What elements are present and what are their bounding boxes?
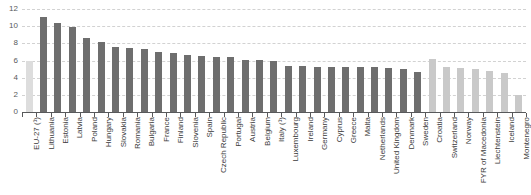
x-tick-label: Bulgaria [148, 117, 156, 146]
bar-slot [223, 9, 237, 112]
bar[interactable] [400, 69, 407, 112]
bar[interactable] [26, 61, 33, 113]
bar[interactable] [486, 71, 493, 112]
x-tick-label-text: Croatia [436, 117, 444, 143]
bar-slot [94, 9, 108, 112]
x-tick-label-text: EU-27 (¹) [33, 117, 41, 150]
bar[interactable] [126, 48, 133, 112]
bar-slot [166, 9, 180, 112]
bar[interactable] [227, 57, 234, 112]
x-tick-label: Slovenia [192, 117, 200, 148]
bar[interactable] [242, 60, 249, 112]
x-tick-label-text: Latvia [76, 117, 84, 138]
bar-slot [36, 9, 50, 112]
bar[interactable] [314, 67, 321, 112]
y-tick-label: 4 [14, 74, 18, 82]
bar[interactable] [98, 42, 105, 112]
bar[interactable] [83, 38, 90, 112]
bar-slot [267, 9, 281, 112]
y-tick-label: 12 [9, 5, 18, 13]
bar[interactable] [501, 73, 508, 112]
bar[interactable] [285, 66, 292, 112]
bar[interactable] [472, 69, 479, 112]
bar[interactable] [457, 68, 464, 112]
bar[interactable] [371, 67, 378, 112]
bar-slot [310, 9, 324, 112]
x-tick-label: Luxembourg [292, 117, 300, 161]
x-tick-label: United Kingdom [393, 117, 401, 174]
bar-slot [324, 9, 338, 112]
x-tick-label-text: Poland [91, 117, 99, 142]
x-tick-label-text: Malta [364, 117, 372, 137]
bar[interactable] [299, 66, 306, 112]
x-tick-label: Italy (¹) [278, 117, 286, 142]
x-tick-label: Spain [206, 117, 214, 137]
x-tick-label: Austria [249, 117, 257, 142]
x-axis-labels: EU-27 (¹)LithuaniaEstoniaLatviaPolandHun… [22, 117, 526, 195]
x-tick-label: France [163, 117, 171, 142]
y-tick-label: 10 [9, 22, 18, 30]
x-tick-label-text: Lithuania [48, 117, 56, 149]
bar[interactable] [54, 23, 61, 112]
bar[interactable] [429, 59, 436, 112]
x-tick-label: Croatia [436, 117, 444, 143]
bar[interactable] [198, 56, 205, 112]
bar-slot [483, 9, 497, 112]
bar[interactable] [270, 61, 277, 112]
x-tick-label: Belgium [264, 117, 272, 146]
bar[interactable] [328, 67, 335, 112]
bar[interactable] [184, 55, 191, 112]
x-tick-label-text: France [163, 117, 171, 142]
bar[interactable] [414, 72, 421, 112]
bar-slot [238, 9, 252, 112]
x-tick-label-text: Iceland [508, 117, 516, 143]
bar[interactable] [170, 53, 177, 112]
bar-slot [382, 9, 396, 112]
bar[interactable] [443, 67, 450, 112]
x-tick-label: Cyprus [336, 117, 344, 142]
bar[interactable] [155, 52, 162, 112]
bar-slot [454, 9, 468, 112]
x-tick-label-text: Austria [249, 117, 257, 142]
x-tick-label: Germany [321, 117, 329, 150]
bar-slot [51, 9, 65, 112]
bar[interactable] [385, 68, 392, 112]
bar[interactable] [256, 60, 263, 112]
bar[interactable] [357, 67, 364, 112]
x-tick-label-text: Cyprus [336, 117, 344, 142]
bar-slot [468, 9, 482, 112]
bar-slot [367, 9, 381, 112]
bar-slot [252, 9, 266, 112]
x-tick-label-text: Slovakia [120, 117, 128, 147]
x-tick-label-text: Denmark [408, 117, 416, 149]
bar[interactable] [515, 95, 522, 112]
x-tick-label: Netherlands [379, 117, 387, 160]
bar[interactable] [40, 17, 47, 112]
x-tick-label: Switzerland [451, 117, 459, 158]
x-tick-label-text: Romania [134, 117, 142, 149]
bar-slot [411, 9, 425, 112]
x-tick-label-text: Sweden [422, 117, 430, 146]
x-tick-label: Greece [350, 117, 358, 143]
x-tick-label: Iceland [508, 117, 516, 143]
bar[interactable] [342, 67, 349, 112]
x-tick-label-text: FYR of Macedonia [480, 117, 488, 183]
bar-slot [22, 9, 36, 112]
x-tick-label: EU-27 (¹) [33, 117, 41, 150]
bar-slot [353, 9, 367, 112]
x-tick-label: FYR of Macedonia [480, 117, 488, 183]
bar-slot [209, 9, 223, 112]
x-tick-label: Ireland [307, 117, 315, 141]
x-tick-label-text: Czech Republic [220, 117, 228, 173]
bar[interactable] [69, 27, 76, 112]
bar-slot [195, 9, 209, 112]
bar[interactable] [213, 57, 220, 112]
x-tick-label: Norway [465, 117, 473, 144]
y-tick-label: 0 [14, 108, 18, 116]
y-tick-label: 2 [14, 91, 18, 99]
bar[interactable] [112, 47, 119, 112]
bar[interactable] [141, 49, 148, 112]
x-tick-label: Romania [134, 117, 142, 149]
bars-container [22, 9, 526, 112]
